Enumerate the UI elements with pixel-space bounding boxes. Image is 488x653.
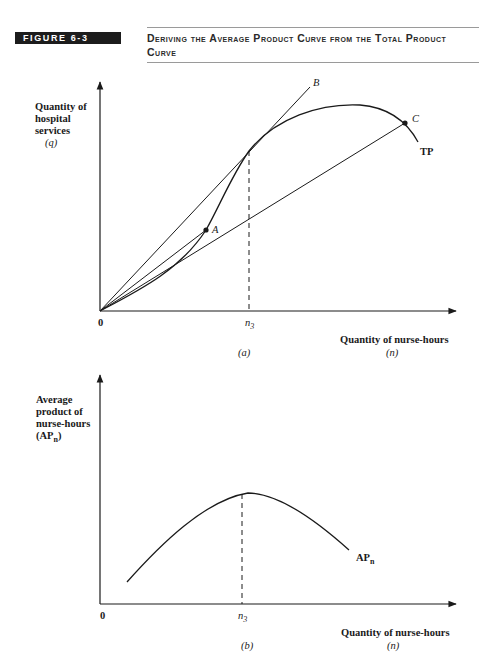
ray-0b bbox=[100, 87, 310, 311]
point-a-marker bbox=[203, 227, 208, 232]
point-b-label: B bbox=[313, 77, 320, 88]
panel-b-ylabel-line3: nurse-hours bbox=[36, 418, 90, 429]
apn-curve-label: APn bbox=[356, 552, 375, 566]
point-c-marker bbox=[402, 120, 407, 125]
point-a-label: A bbox=[211, 224, 219, 235]
ray-0a bbox=[100, 230, 206, 311]
point-c-label: C bbox=[412, 113, 420, 124]
figure-charts: A B C TP Quantity of hospital services (… bbox=[0, 0, 488, 653]
panel-b-ylabel-line2: product of bbox=[36, 406, 83, 417]
panel-a-n3-label: n3 bbox=[245, 317, 254, 331]
panel-a-ylabel-line3: services bbox=[35, 125, 70, 136]
panel-b-xlabel: Quantity of nurse-hours bbox=[341, 627, 450, 638]
apn-curve bbox=[127, 493, 349, 582]
panel-a-xlabel: Quantity of nurse-hours bbox=[340, 334, 449, 345]
panel-a-caption: (a) bbox=[238, 347, 251, 359]
tp-curve bbox=[100, 105, 418, 311]
panel-b-ylabel-line1: Average bbox=[36, 394, 73, 405]
panel-a: A B C TP Quantity of hospital services (… bbox=[35, 77, 456, 359]
panel-b-caption: (b) bbox=[241, 640, 254, 652]
panel-a-ylabel-line1: Quantity of bbox=[35, 101, 87, 112]
ray-0c bbox=[100, 123, 405, 311]
panel-a-ylabel-symbol: (q) bbox=[45, 137, 58, 149]
panel-b: APn Average product of nurse-hours (APn)… bbox=[36, 375, 456, 652]
panel-a-origin-label: 0 bbox=[98, 317, 103, 328]
panel-b-xlabel-symbol: (n) bbox=[387, 640, 400, 652]
tp-curve-label: TP bbox=[420, 146, 434, 157]
panel-b-origin-label: 0 bbox=[100, 610, 105, 621]
panel-b-n3-label: n3 bbox=[238, 610, 247, 624]
panel-b-ylabel-symbol: (APn) bbox=[36, 430, 62, 444]
panel-a-ylabel-line2: hospital bbox=[35, 113, 71, 124]
panel-a-xlabel-symbol: (n) bbox=[386, 347, 399, 359]
